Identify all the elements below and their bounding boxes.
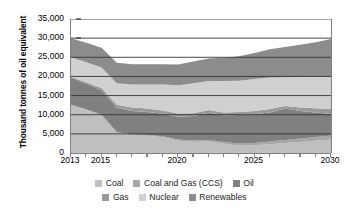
legend-swatch-icon [95,180,102,187]
x-axis-tick-mark [85,153,86,157]
legend-swatch-icon [139,194,146,201]
legend-label: Renewables [199,192,246,202]
chart-legend: CoalCoal and Gas (CCS)Oil GasNuclearRene… [0,176,349,204]
legend-label: Oil [243,178,254,188]
legend-swatch-icon [233,180,240,187]
x-axis-tick-mark [299,153,300,157]
legend-item-coal-and-gas-ccs[interactable]: Coal and Gas (CCS) [133,178,222,188]
legend-swatch-icon [133,180,140,187]
y-axis-tick-label: 5,000 [18,129,64,138]
x-axis-tick-mark [269,153,270,157]
x-axis-tick-mark [315,153,316,157]
x-axis-tick-mark [192,153,193,157]
chart-container: Thousand tonnes of oil equivalent 35,000… [0,0,349,218]
legend-item-oil[interactable]: Oil [233,178,254,188]
x-axis-tick-mark [70,153,71,157]
legend-label: Coal [106,178,124,188]
x-axis-tick-mark [238,153,239,157]
y-axis-tick-label: 35,000 [18,14,64,23]
x-axis-tick-mark [284,153,285,157]
x-axis-tick-mark [330,153,331,157]
legend-item-nuclear[interactable]: Nuclear [139,192,179,202]
y-axis-tick-label: 15,000 [18,91,64,100]
plot-area [70,19,332,153]
legend-label: Gas [113,192,129,202]
y-axis-tick-label: 25,000 [18,52,64,61]
x-axis-tick-mark [162,153,163,157]
legend-swatch-icon [189,194,196,201]
legend-item-gas[interactable]: Gas [102,192,128,202]
x-axis-tick-mark [177,153,178,157]
legend-row-2: GasNuclearRenewables [0,190,349,204]
x-axis-tick-mark [116,153,117,157]
x-axis-line [70,153,331,154]
x-axis-tick-mark [101,153,102,157]
x-axis-tick-mark [146,153,147,157]
x-axis-tick-mark [223,153,224,157]
legend-swatch-icon [102,194,109,201]
y-axis-tick-label: 10,000 [18,110,64,119]
x-axis-tick-labels: 20132015202020252030 [0,155,349,171]
legend-label: Coal and Gas (CCS) [144,178,223,188]
x-axis-tick-mark [208,153,209,157]
legend-label: Nuclear [149,192,179,202]
legend-item-renewables[interactable]: Renewables [189,192,247,202]
x-axis-tick-mark [131,153,132,157]
y-axis-tick-label: 20,000 [18,71,64,80]
stacked-area-plot [71,19,331,153]
x-axis-tick-mark [254,153,255,157]
legend-row-1: CoalCoal and Gas (CCS)Oil [0,176,349,190]
legend-item-coal[interactable]: Coal [95,178,123,188]
y-axis-tick-label: 30,000 [18,33,64,42]
